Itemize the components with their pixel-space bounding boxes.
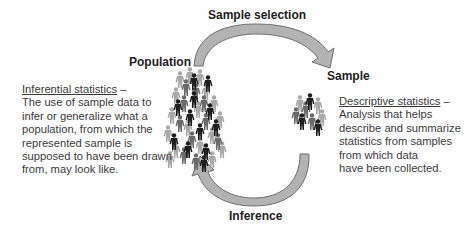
sample-selection-label: Sample selection	[208, 8, 306, 22]
inference-arrow	[192, 154, 309, 206]
descriptive-statistics-term: Descriptive statistics	[339, 95, 440, 107]
sample-selection-arrow	[194, 24, 334, 68]
inference-label: Inference	[229, 209, 282, 223]
descriptive-statistics-description: Descriptive statistics – Analysis that h…	[339, 95, 461, 175]
inferential-statistics-term: Inferential statistics	[22, 83, 117, 95]
population-crowd-icon	[164, 67, 227, 172]
sample-label: Sample	[327, 69, 370, 83]
population-label: Population	[129, 55, 191, 69]
sample-crowd-icon	[292, 93, 327, 136]
inferential-statistics-description: Inferential statistics – The use of samp…	[22, 83, 172, 177]
